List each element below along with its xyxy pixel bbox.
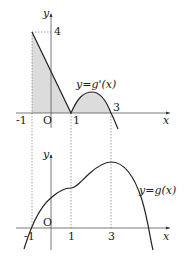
x-axis-label: x	[163, 230, 170, 243]
figure: y 4 y=g'(x) -1 O 1 3 x y O -1 1 3 x y=g(…	[0, 0, 184, 262]
x-axis-label: x	[163, 114, 170, 127]
y-axis-arrow-icon	[50, 13, 53, 17]
g-curve	[24, 162, 153, 250]
x-tick-neg1: -1	[16, 114, 27, 127]
x-tick-3: 3	[113, 101, 120, 114]
x-tick-1: 1	[73, 114, 80, 127]
x-tick-1: 1	[68, 230, 75, 243]
function-label-g: y=g(x)	[138, 184, 176, 197]
y-axis-label: y	[42, 148, 50, 161]
bottom-graph: y O -1 1 3 x y=g(x)	[16, 148, 176, 250]
y-axis-label: y	[42, 7, 50, 20]
x-tick-3: 3	[108, 230, 115, 243]
origin-label: O	[43, 114, 52, 127]
x-tick-neg1: -1	[24, 230, 35, 243]
y-axis-arrow-icon	[50, 154, 53, 158]
origin-label: O	[43, 216, 52, 229]
y-tick-4: 4	[54, 25, 61, 38]
function-label-g-prime: y=g'(x)	[75, 78, 116, 91]
